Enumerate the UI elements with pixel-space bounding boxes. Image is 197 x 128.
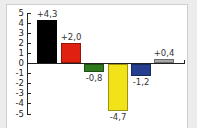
- y-tick-label: 0: [12, 59, 24, 68]
- y-tick: [27, 33, 31, 34]
- y-tick-label: 5: [12, 9, 24, 18]
- bar-value-label: -1,2: [126, 78, 156, 87]
- bar-value-label: +0,4: [149, 49, 179, 58]
- bar: [37, 20, 57, 63]
- bar: [84, 64, 104, 72]
- y-tick-label: -3: [12, 89, 24, 98]
- y-tick-label: -1: [12, 69, 24, 78]
- bar: [154, 59, 174, 63]
- y-tick: [27, 53, 31, 54]
- y-tick-label: -2: [12, 79, 24, 88]
- bar-value-label: +2,0: [56, 33, 86, 42]
- y-tick-label: 1: [12, 49, 24, 58]
- y-tick-label: 3: [12, 29, 24, 38]
- y-tick: [27, 103, 31, 104]
- x-axis-end-tick: [184, 60, 185, 64]
- y-tick: [27, 114, 31, 115]
- bar: [61, 43, 81, 63]
- y-tick: [27, 13, 31, 14]
- y-tick-label: -5: [12, 110, 24, 119]
- y-tick: [27, 23, 31, 24]
- y-tick: [27, 83, 31, 84]
- y-tick: [27, 73, 31, 74]
- y-tick: [27, 63, 31, 64]
- x-axis-zero-line: [27, 63, 185, 64]
- bar: [131, 64, 151, 76]
- y-tick-label: -4: [12, 99, 24, 108]
- bar-value-label: +4,3: [32, 10, 62, 19]
- y-tick: [27, 93, 31, 94]
- y-tick: [27, 43, 31, 44]
- y-tick-label: 4: [12, 19, 24, 28]
- bar-value-label: -4,7: [103, 113, 133, 122]
- bar: [108, 64, 128, 111]
- y-tick-label: 2: [12, 39, 24, 48]
- bar-value-label: -0,8: [79, 74, 109, 83]
- bar-chart: 543210-1-2-3-4-5 +4,3+2,0-0,8-4,7-1,2+0,…: [0, 0, 197, 128]
